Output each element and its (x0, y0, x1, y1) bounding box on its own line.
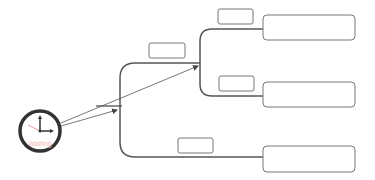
arrow-to-trunk (61, 110, 117, 126)
clock-icon[interactable]: Waiting (20, 111, 60, 151)
arrow-to-upper-branch (61, 66, 198, 123)
branch-label-upper-trunk[interactable] (149, 43, 185, 58)
end-node-middle[interactable] (263, 82, 355, 107)
end-node-bottom[interactable] (263, 146, 355, 172)
branch-label-bottom[interactable] (178, 138, 213, 153)
end-node-top[interactable] (263, 15, 355, 40)
flow-diagram: Waiting (0, 0, 375, 180)
branch-label-top[interactable] (218, 9, 253, 24)
branch-label-middle[interactable] (219, 76, 254, 91)
clock-label: Waiting (28, 140, 51, 148)
